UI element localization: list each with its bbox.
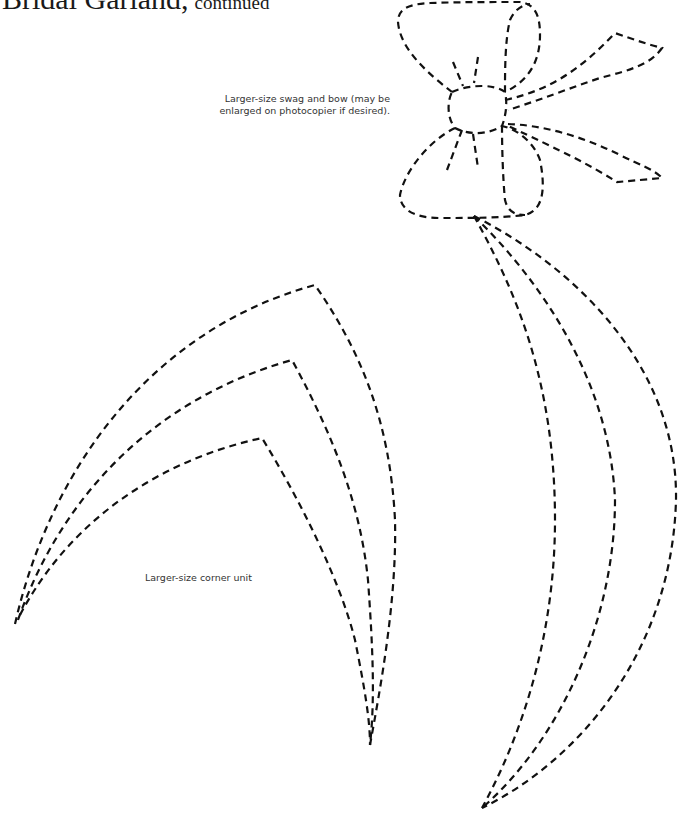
bow-wrinkle-4 — [473, 134, 478, 168]
bow-wrinkle-1 — [453, 62, 463, 86]
corner-arc-outer — [15, 285, 395, 745]
bow-knot — [449, 86, 507, 133]
corner-arc-middle — [18, 360, 373, 745]
swag-line-outer — [474, 216, 676, 808]
corner-arc-inner — [20, 438, 370, 745]
bow-pattern — [398, 2, 662, 218]
bow-upper-inner-line — [505, 4, 530, 92]
bow-lower-left-loop — [400, 126, 543, 218]
bow-wrinkle-3 — [447, 130, 462, 170]
bow-lower-right-tail — [508, 124, 662, 182]
swag-line-inner — [474, 216, 555, 808]
bow-upper-left-loop — [398, 2, 540, 92]
bow-upper-right-tail — [505, 33, 662, 110]
bow-wrinkle-2 — [474, 57, 478, 83]
bow-lower-inner-line — [502, 126, 525, 215]
pattern-artwork — [0, 0, 678, 815]
corner-unit-pattern — [15, 285, 395, 745]
swag-pattern — [474, 216, 676, 808]
